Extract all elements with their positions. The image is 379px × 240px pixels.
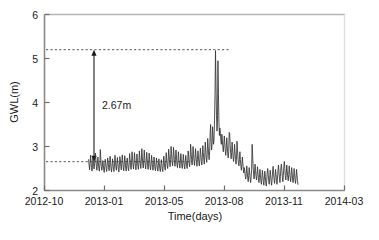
x-tick-label-2013-01: 2013-01 xyxy=(85,195,124,207)
y-axis-title: GWL(m) xyxy=(8,81,20,123)
x-tick-label-2014-03: 2014-03 xyxy=(325,195,364,207)
y-tick-label-6: 6 xyxy=(32,9,38,21)
x-tick-label-2012-10: 2012-10 xyxy=(25,195,64,207)
y-tick-label-5: 5 xyxy=(32,53,38,65)
drop-value-label: 2.67m xyxy=(102,99,131,111)
x-tick-label-2013-05: 2013-05 xyxy=(145,195,184,207)
y-tick-label-4: 4 xyxy=(32,97,38,109)
x-tick-label-2013-11: 2013-11 xyxy=(265,195,303,207)
x-axis-title: Time(days) xyxy=(168,210,223,222)
gwl-time-series-chart: 6 5 4 3 2 2012-10 2013-01 2013-05 2013-0… xyxy=(0,0,379,240)
figure-caption xyxy=(0,233,379,240)
y-tick-label-3: 3 xyxy=(32,141,38,153)
x-tick-label-2013-08: 2013-08 xyxy=(205,195,244,207)
figure-container: 6 5 4 3 2 2012-10 2013-01 2013-05 2013-0… xyxy=(0,0,379,240)
